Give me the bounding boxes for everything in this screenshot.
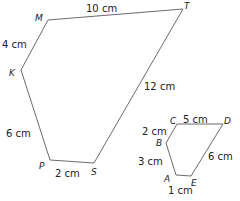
side-length-label: 6 cm: [208, 151, 233, 162]
vertex-label-c: C: [170, 116, 177, 126]
vertex-label-p: P: [39, 161, 45, 171]
vertex-label-s: S: [91, 167, 97, 177]
large-polygon: MTSPK 10 cm12 cm2 cm6 cm4 cm: [2, 1, 191, 179]
vertex-label-m: M: [35, 13, 43, 23]
side-length-label: 2 cm: [142, 126, 167, 137]
vertex-label-a: A: [163, 174, 170, 184]
vertex-label-k: K: [9, 68, 16, 78]
side-length-label: 5 cm: [183, 114, 208, 125]
vertex-label-t: T: [184, 1, 191, 11]
side-length-label: 1 cm: [168, 185, 193, 196]
side-length-label: 12 cm: [144, 81, 175, 92]
side-length-label: 2 cm: [55, 168, 80, 179]
side-length-label: 6 cm: [6, 128, 31, 139]
small-polygon: CDEAB 5 cm6 cm1 cm3 cm2 cm: [138, 114, 233, 196]
side-length-label: 3 cm: [138, 156, 163, 167]
vertex-label-b: B: [156, 138, 162, 148]
polygon-cdeab: [166, 124, 223, 176]
side-length-label: 10 cm: [86, 3, 117, 14]
vertex-label-d: D: [224, 116, 231, 126]
side-length-label: 4 cm: [2, 39, 27, 50]
diagram-canvas: MTSPK 10 cm12 cm2 cm6 cm4 cm CDEAB 5 cm6…: [0, 0, 240, 201]
